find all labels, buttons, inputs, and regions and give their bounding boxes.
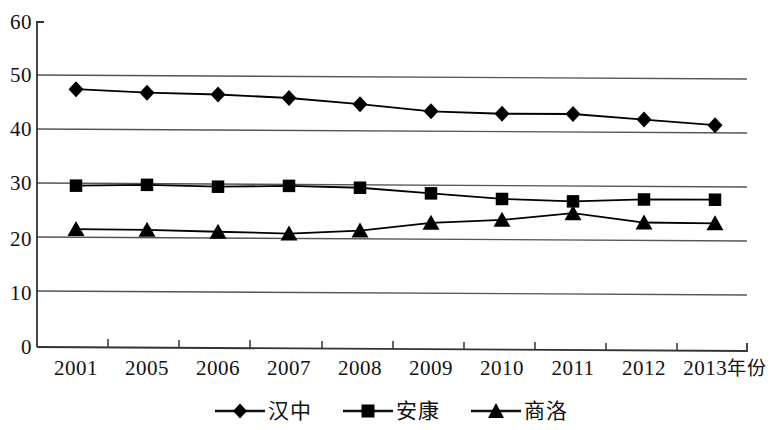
data-point [140, 85, 155, 101]
data-point [282, 90, 297, 106]
data-point [708, 117, 723, 133]
gridline-20 [37, 237, 747, 241]
data-point [637, 112, 652, 128]
legend-square-icon [342, 401, 394, 421]
y-axis-line [37, 22, 44, 347]
data-point [495, 106, 510, 122]
legend-label-shangluo: 商洛 [524, 401, 568, 422]
data-point [69, 81, 84, 97]
legend-label-hanzhong: 汉中 [268, 401, 312, 422]
data-point [141, 179, 154, 192]
data-point [709, 193, 722, 206]
data-point [212, 180, 225, 193]
series-line-diamond [76, 89, 715, 125]
data-point [424, 103, 439, 119]
legend-item-shangluo[interactable]: 商洛 [470, 401, 568, 422]
legend-item-hanzhong[interactable]: 汉中 [214, 401, 312, 422]
legend-item-ankang[interactable]: 安康 [342, 401, 440, 422]
x-tick-label-2013-year: 2013 [683, 356, 727, 380]
x-tick-label-2006: 2006 [196, 355, 240, 381]
data-point [70, 179, 83, 192]
legend-triangle-icon [470, 401, 522, 421]
x-tick-label-2007: 2007 [267, 355, 311, 381]
legend-label-ankang: 安康 [396, 401, 440, 422]
legend-diamond-icon [214, 401, 266, 421]
gridline-40 [37, 129, 747, 133]
x-axis-label-group: 2001 2005 2006 2007 2008 2009 2010 2011 … [0, 355, 781, 389]
x-tick-label-2012: 2012 [622, 355, 666, 381]
data-point [496, 193, 509, 206]
data-point [353, 96, 368, 112]
series-line-square [76, 185, 715, 202]
x-axis-unit-label: 年份 [727, 357, 766, 379]
data-point [638, 193, 651, 206]
gridline-50 [37, 75, 747, 79]
gridline-10 [37, 291, 747, 295]
x-tick-label-2011: 2011 [551, 355, 594, 381]
data-point [211, 87, 226, 103]
data-point [425, 187, 438, 200]
x-tick-label-2008: 2008 [338, 355, 382, 381]
x-tick-label-2009: 2009 [409, 355, 453, 381]
x-tick-label-2005: 2005 [125, 355, 169, 381]
data-point [566, 106, 581, 122]
line-chart: 60 50 40 30 20 10 0 [0, 0, 781, 430]
x-tick-label-2001: 2001 [54, 355, 98, 381]
x-tick-label-2010: 2010 [480, 355, 524, 381]
legend: 汉中 安康 商洛 [0, 394, 781, 428]
data-point [354, 181, 367, 194]
x-tick-label-2013: 2013年份 [683, 355, 766, 381]
x-axis-line [37, 343, 747, 351]
series-line-triangle [76, 213, 715, 233]
series-group [68, 81, 724, 240]
data-point [283, 180, 296, 193]
